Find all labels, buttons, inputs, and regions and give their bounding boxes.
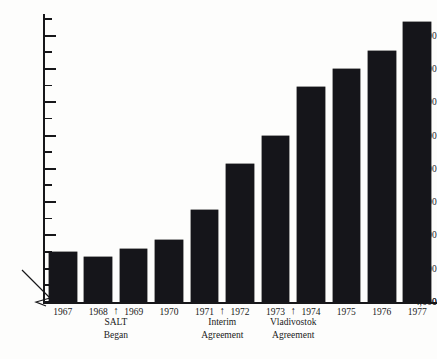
bar (297, 87, 325, 302)
bar (120, 249, 148, 302)
annotation-line-1: Vladivostok (243, 316, 343, 329)
x-axis-line (45, 302, 437, 304)
annotation-line-2: Began (66, 329, 166, 342)
bar (49, 252, 77, 302)
annotation-line-2: Agreement (243, 329, 343, 342)
x-axis-tick-label: 1976 (364, 306, 399, 319)
annotation-salt-began: ↑SALTBegan (66, 306, 166, 341)
up-arrow-icon: ↑ (243, 306, 343, 315)
bar (191, 210, 219, 302)
bar (84, 257, 112, 302)
bar (226, 164, 254, 302)
plot-area (45, 0, 435, 302)
bar (403, 22, 431, 302)
bar-chart: 4,0005,0006,0007,0008,0009,00010,00011,0… (0, 0, 437, 359)
bar (333, 69, 361, 302)
x-axis-tick-label: 1977 (400, 306, 435, 319)
annotation-line-1: SALT (66, 316, 166, 329)
bar (368, 51, 396, 302)
annotation-vladivostok-agreement: ↑VladivostokAgreement (243, 306, 343, 341)
bar (262, 136, 290, 302)
up-arrow-icon: ↑ (66, 306, 166, 315)
bar (155, 240, 183, 302)
